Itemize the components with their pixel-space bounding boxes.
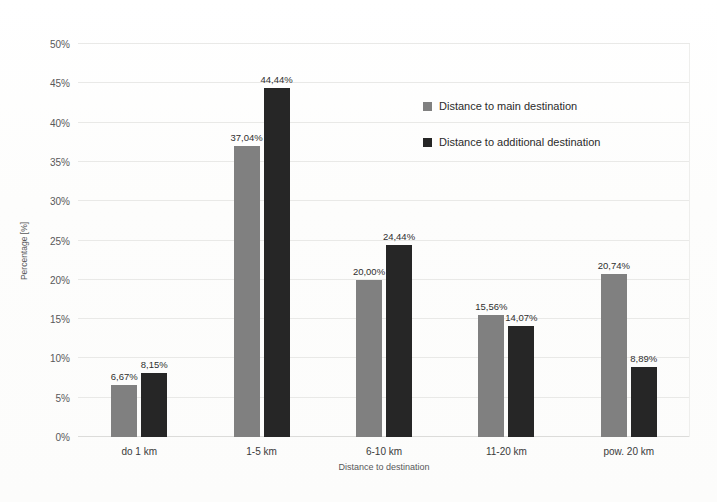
- y-axis-tick-label: 10%: [50, 353, 70, 364]
- bar-rect: [234, 146, 260, 437]
- bar-value-label: 20,00%: [353, 266, 385, 277]
- legend-swatch-icon: [423, 138, 432, 147]
- bar-value-label: 44,44%: [260, 74, 292, 85]
- bar: 37,04%: [234, 146, 260, 437]
- bar: 15,56%: [478, 315, 504, 437]
- bar-rect: [631, 367, 657, 437]
- y-axis-tick-label: 40%: [50, 117, 70, 128]
- bar-value-label: 37,04%: [230, 132, 262, 143]
- bar-value-label: 20,74%: [598, 260, 630, 271]
- bar: 24,44%: [386, 245, 412, 437]
- bar-rect: [478, 315, 504, 437]
- bar-rect: [386, 245, 412, 437]
- bar-rect: [264, 88, 290, 437]
- bar: 6,67%: [111, 385, 137, 437]
- bar: 20,00%: [356, 280, 382, 437]
- x-axis-tick-label: 6-10 km: [366, 446, 402, 457]
- y-axis-tick-label: 25%: [50, 235, 70, 246]
- x-axis-tick-label: 1-5 km: [246, 446, 277, 457]
- bar-rect: [356, 280, 382, 437]
- legend-item[interactable]: Distance to main destination: [423, 97, 600, 115]
- y-axis-tick-label: 45%: [50, 78, 70, 89]
- bar-value-label: 15,56%: [475, 301, 507, 312]
- x-axis-tick-label: 11-20 km: [486, 446, 527, 457]
- bar-value-label: 8,89%: [630, 353, 657, 364]
- bar-value-label: 14,07%: [505, 312, 537, 323]
- bar-group: 37,04%44,44%1-5 km: [234, 44, 290, 437]
- x-axis-tick-label: do 1 km: [121, 446, 157, 457]
- bar: 8,15%: [141, 373, 167, 437]
- bar-rect: [141, 373, 167, 437]
- bar: 44,44%: [264, 88, 290, 437]
- legend-label: Distance to main destination: [439, 100, 577, 112]
- x-axis-tick-label: pow. 20 km: [604, 446, 655, 457]
- bar-rect: [601, 274, 627, 437]
- bar-value-label: 8,15%: [141, 359, 168, 370]
- y-axis-title: Percentage [%]: [19, 222, 29, 280]
- x-axis-title: Distance to destination: [78, 462, 690, 472]
- y-axis-tick-label: 50%: [50, 39, 70, 50]
- y-axis-tick-label: 35%: [50, 156, 70, 167]
- bar-rect: [508, 326, 534, 437]
- chart-legend: Distance to main destinationDistance to …: [423, 97, 600, 169]
- bar: 14,07%: [508, 326, 534, 437]
- bar-group: 6,67%8,15%do 1 km: [111, 44, 167, 437]
- bar-value-label: 24,44%: [383, 231, 415, 242]
- legend-swatch-icon: [423, 102, 432, 111]
- y-axis-tick-label: 0%: [56, 432, 70, 443]
- chart-page: Percentage [%] 0%5%10%15%20%25%30%35%40%…: [0, 0, 717, 502]
- legend-item[interactable]: Distance to additional destination: [423, 133, 600, 151]
- y-axis-tick-label: 20%: [50, 274, 70, 285]
- y-axis-tick-label: 15%: [50, 314, 70, 325]
- plot-right-border: [689, 44, 690, 437]
- bar: 8,89%: [631, 367, 657, 437]
- y-axis-tick-label: 5%: [56, 392, 70, 403]
- bar-group: 20,74%8,89%pow. 20 km: [601, 44, 657, 437]
- bar-group: 20,00%24,44%6-10 km: [356, 44, 412, 437]
- bar: 20,74%: [601, 274, 627, 437]
- legend-label: Distance to additional destination: [439, 136, 600, 148]
- y-axis-tick-label: 30%: [50, 196, 70, 207]
- bar-value-label: 6,67%: [111, 371, 138, 382]
- bar-rect: [111, 385, 137, 437]
